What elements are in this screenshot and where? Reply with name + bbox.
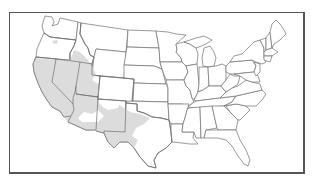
state-maine[interactable] bbox=[270, 20, 286, 48]
state-kansas[interactable] bbox=[133, 83, 168, 102]
state-wyoming[interactable] bbox=[92, 49, 126, 78]
state-colorado[interactable] bbox=[98, 76, 134, 102]
state-new-york[interactable] bbox=[230, 40, 266, 64]
state-florida[interactable] bbox=[204, 130, 250, 166]
us-map bbox=[0, 0, 316, 180]
state-north-dakota[interactable] bbox=[127, 30, 159, 48]
state-michigan-lower[interactable] bbox=[202, 46, 216, 67]
state-new-jersey[interactable] bbox=[254, 62, 260, 76]
